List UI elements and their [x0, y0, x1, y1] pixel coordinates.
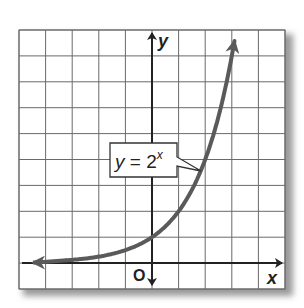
x-axis-label: x	[266, 268, 278, 288]
curve-left-arrow	[33, 260, 67, 262]
origin-label: O	[133, 267, 145, 284]
y-axis-label: y	[157, 31, 169, 51]
equation-label: y = 2x	[113, 148, 164, 172]
equation-rest: = 2	[125, 151, 157, 172]
exponential-graph: y x O y = 2x	[0, 0, 304, 308]
equation-exponent: x	[156, 148, 164, 162]
